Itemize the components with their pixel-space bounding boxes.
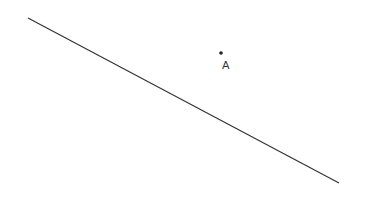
point-a-label: A	[222, 59, 230, 72]
geometry-canvas: A	[0, 0, 382, 212]
point-a	[219, 51, 223, 55]
line	[28, 18, 339, 183]
diagram-svg: A	[0, 0, 382, 212]
